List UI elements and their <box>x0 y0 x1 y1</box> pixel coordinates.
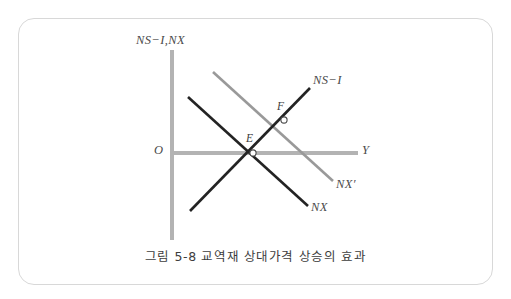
figure-caption: 그림 5-8 교역재 상대가격 상승의 효과 <box>0 246 511 265</box>
y-axis-label: NS−I,NX <box>136 33 185 48</box>
curve-label-ns-i: NS−I <box>313 73 342 88</box>
figure-root: NS−I,NX O Y NS−I NX′ NX E F 그림 5-8 교역재 상… <box>0 0 511 299</box>
curve-label-nx-prime: NX′ <box>336 177 356 192</box>
point-label-f: F <box>277 100 284 112</box>
curve-label-nx: NX <box>311 200 328 215</box>
origin-label: O <box>154 143 163 158</box>
x-axis-label: Y <box>362 143 369 158</box>
point-label-e: E <box>246 132 253 144</box>
figure-frame <box>18 18 493 285</box>
